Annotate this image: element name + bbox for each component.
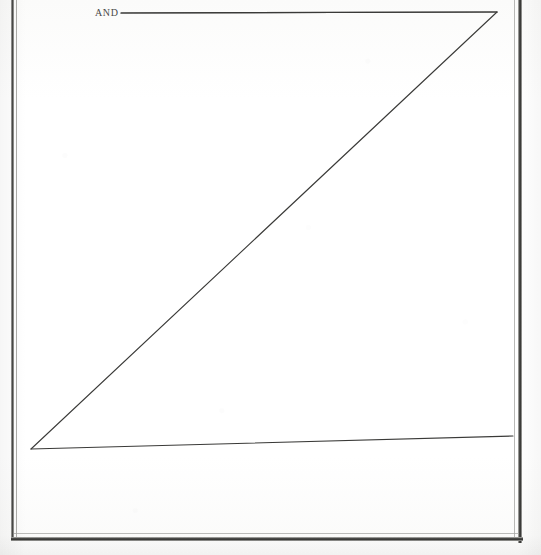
and-label: AND [95,7,118,19]
line-diagram [0,0,541,555]
leader-line-and [121,12,497,13]
scanned-page: AND [0,0,541,555]
trace-descending-diagonal-trace [31,12,497,449]
trace-lower-near-horizontal-trace [31,436,513,449]
